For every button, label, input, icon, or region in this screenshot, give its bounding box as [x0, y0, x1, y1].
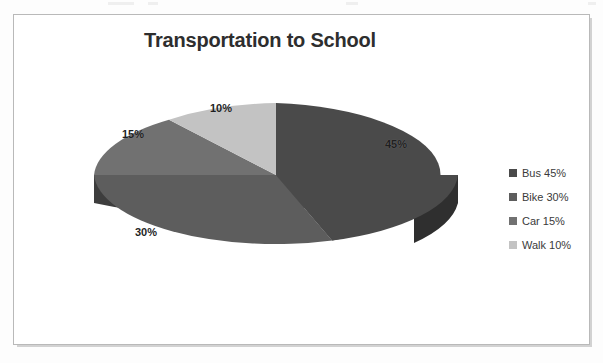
- scan-artifact: [346, 2, 358, 5]
- frame-shadow: [17, 345, 592, 347]
- pie-top-face: [94, 103, 458, 244]
- pie-data-label-car: 15%: [122, 128, 144, 140]
- chart-screenshot: Transportation to School: [0, 0, 603, 363]
- legend-swatch-icon: [509, 241, 517, 249]
- legend-item-car[interactable]: Car 15%: [509, 209, 595, 233]
- plot-area: 45% 30% 15% 10%: [14, 15, 589, 344]
- legend-label: Bike 30%: [522, 191, 568, 203]
- scan-artifact: [108, 2, 134, 5]
- legend-item-bike[interactable]: Bike 30%: [509, 185, 595, 209]
- chart-legend: Bus 45% Bike 30% Car 15% Walk 10%: [509, 161, 595, 257]
- legend-label: Walk 10%: [522, 239, 571, 251]
- legend-swatch-icon: [509, 169, 517, 177]
- pie-chart-3d: [74, 75, 474, 305]
- pie-data-label-bus: 45%: [385, 138, 407, 150]
- legend-label: Bus 45%: [522, 167, 566, 179]
- legend-swatch-icon: [509, 193, 517, 201]
- legend-label: Car 15%: [522, 215, 565, 227]
- scan-artifact: [148, 2, 158, 5]
- legend-item-walk[interactable]: Walk 10%: [509, 233, 595, 257]
- legend-item-bus[interactable]: Bus 45%: [509, 161, 595, 185]
- scan-artifact: [588, 2, 596, 5]
- pie-data-label-bike: 30%: [135, 226, 157, 238]
- legend-swatch-icon: [509, 217, 517, 225]
- pie-data-label-walk: 10%: [210, 102, 232, 114]
